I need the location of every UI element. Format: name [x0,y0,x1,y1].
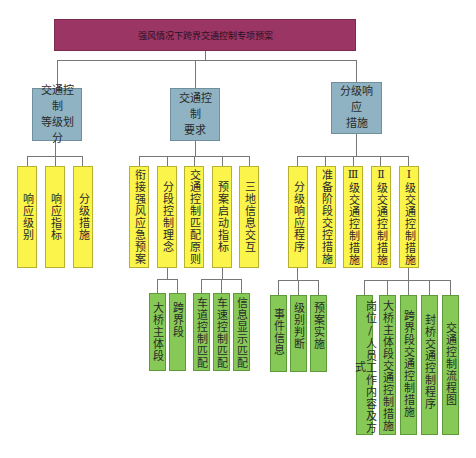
node-label: 跨界段 [172,294,183,338]
node-label: 准备阶段交控措施 [321,169,332,265]
node-label: 车速控制匹配 [216,294,227,369]
connector [380,156,381,166]
node-label: Ⅰ级交通控制措施 [404,168,415,266]
node-label-line: 等级划分 [37,115,77,147]
node-label: 响应指标 [50,193,61,241]
connector [353,156,354,166]
node-level-judgment: 级别判断 [290,295,307,372]
connector [297,268,298,280]
node-label: 三地信息交互 [244,181,255,253]
node-level2-measures: Ⅱ级交通控制措施 [371,166,391,268]
node-cross-border-section: 跨界段 [169,293,186,371]
node-label: 响应级别 [22,193,33,241]
node-bridge-closure-procedure: 封桥交通控制程序 [421,295,438,435]
node-label-line: 要求 [184,123,206,139]
node-label: 岗位/人员工作内容及方式 [354,296,376,434]
node-segmented-control: 分段控制理念 [157,166,177,268]
connector [450,280,451,295]
connector [408,156,409,166]
node-label-line: 措施 [346,116,368,132]
connector [167,268,168,279]
connector [221,279,222,293]
node-cross-border-control: 跨界段交通控制措施 [400,295,417,435]
root-label: 强风情况下跨界交通控制专项预案 [138,29,273,42]
connector [157,279,178,280]
node-label: 分段控制理念 [162,181,173,253]
connector [387,280,388,295]
node-link-wind-plan: 衔接强风应急预案 [129,166,149,268]
connector [27,156,28,166]
connector [298,280,299,295]
node-activation-indicators: 预案启动指标 [212,166,232,268]
connector [318,280,319,295]
node-label: 事件信息 [273,296,284,356]
node-prep-stage-measures: 准备阶段交控措施 [316,166,336,268]
node-label: 预案启动指标 [217,181,228,253]
node-label: 封桥交通控制程序 [424,296,435,410]
node-traffic-control-grading: 交通控制 等级划分 [32,88,82,141]
node-label: 车道控制匹配 [196,294,207,369]
connector [325,156,326,166]
node-traffic-control-requirements: 交通控制 要求 [170,88,220,141]
node-label: 分级措施 [78,193,89,241]
connector [356,134,357,156]
connector [82,156,83,166]
node-event-info: 事件信息 [270,295,287,372]
node-label: 级别判断 [293,296,304,350]
connector [177,279,178,293]
node-label: 大桥主体段交通控制措施 [382,296,393,432]
connector [194,156,195,166]
node-label-line: 交通控制 [175,91,215,123]
node-label: Ⅲ级交通控制措施 [348,168,359,266]
node-info-display-match: 信息显示匹配 [233,293,250,371]
connector [408,280,409,295]
node-graded-response-measures: 分级响应 措施 [331,82,382,134]
connector [195,141,196,156]
node-response-indicator: 响应指标 [45,166,65,268]
node-response-level: 响应级别 [17,166,37,268]
node-label: 信息显示匹配 [236,294,247,369]
node-lane-control-match: 车道控制匹配 [193,293,210,371]
node-label: 衔接强风应急预案 [134,169,145,265]
connector [249,156,250,166]
node-label: 交通控制流程图 [445,296,456,406]
connector [364,280,365,295]
node-label: 跨界段交通控制措施 [403,296,414,418]
root-node: 强风情况下跨界交通控制专项预案 [54,19,356,51]
node-label-line: 分级响应 [336,84,377,116]
node-control-flowchart: 交通控制流程图 [442,295,459,435]
connector [157,279,158,293]
node-label: 预案实施 [313,296,324,350]
connector [222,156,223,166]
node-staff-duties: 岗位/人员工作内容及方式 [356,295,373,435]
connector [429,280,430,295]
node-label: 交通控制匹配原则 [189,169,200,265]
node-label-line: 交通控制 [37,83,77,115]
connector [195,60,196,88]
node-plan-implementation: 预案实施 [310,295,327,372]
connector [167,156,168,166]
connector [241,279,242,293]
connector [408,268,409,280]
node-label: 分级响应程序 [293,181,304,253]
node-control-matching: 交通控制匹配原则 [184,166,204,268]
connector [278,280,279,295]
connector [55,156,56,166]
node-speed-control-match: 车速控制匹配 [213,293,230,371]
connector [222,268,223,279]
node-label: 大桥主体段 [152,294,163,362]
connector [201,279,202,293]
connector [139,156,140,166]
connector [205,51,206,60]
connector [57,60,357,61]
node-graded-measures: 分级措施 [73,166,93,268]
node-info-exchange: 三地信息交互 [239,166,259,268]
connector [297,156,298,166]
node-level1-measures: Ⅰ级交通控制措施 [399,166,419,268]
node-bridge-main-section: 大桥主体段 [149,293,166,371]
connector [356,60,357,82]
node-label: Ⅱ级交通控制措施 [376,168,387,266]
node-level3-measures: Ⅲ级交通控制措施 [343,166,363,268]
node-bridge-main-control: 大桥主体段交通控制措施 [379,295,396,435]
node-response-procedure: 分级响应程序 [288,166,308,268]
